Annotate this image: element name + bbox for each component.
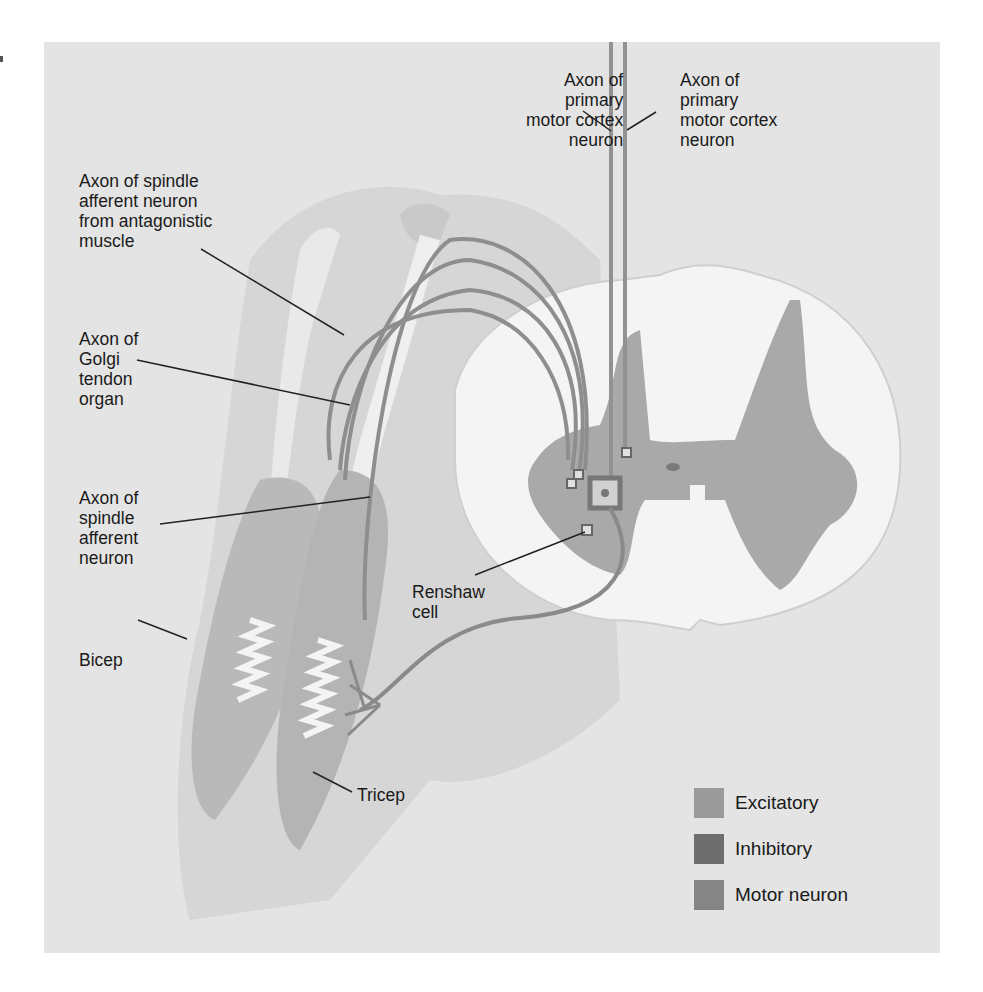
label-renshaw-cell: Renshaw cell [412,582,485,622]
interneuron-2 [567,479,576,488]
label-axon-primary-motor-cortex-left: Axon of primary motor cortex neuron [526,70,623,150]
label-axon-primary-motor-cortex-right: Axon of primary motor cortex neuron [680,70,777,150]
legend-item-motor-neuron: Motor neuron [694,872,848,918]
central-canal [666,463,680,471]
label-tricep: Tricep [357,785,405,805]
legend: Excitatory Inhibitory Motor neuron [694,780,848,918]
inhibitory-swatch [694,834,724,864]
excitatory-swatch [694,788,724,818]
motor-neuron-nucleus [601,489,609,497]
motor-neuron-swatch [694,880,724,910]
label-spindle-afferent-axon: Axon of spindle afferent neuron [79,488,138,568]
legend-label: Inhibitory [735,838,812,860]
legend-label: Motor neuron [735,884,848,906]
label-golgi-tendon-organ-axon: Axon of Golgi tendon organ [79,329,138,409]
legend-label: Excitatory [735,792,818,814]
interneuron-3 [622,448,631,457]
interneuron-1 [574,470,583,479]
label-bicep: Bicep [79,650,123,670]
renshaw-cell [582,525,592,535]
legend-item-excitatory: Excitatory [694,780,848,826]
legend-item-inhibitory: Inhibitory [694,826,848,872]
label-spindle-afferent-antagonistic: Axon of spindle afferent neuron from ant… [79,171,212,251]
